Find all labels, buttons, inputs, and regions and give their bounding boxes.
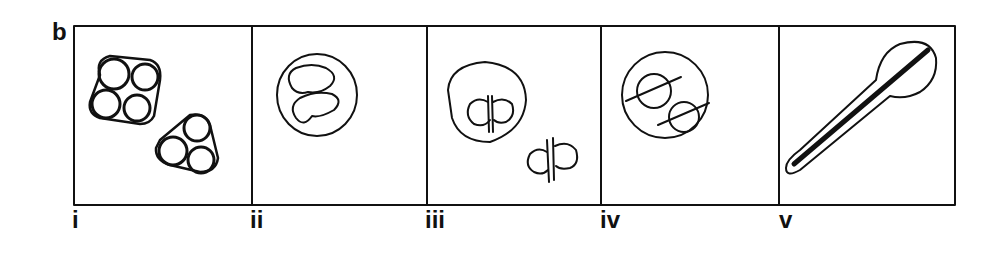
frame — [74, 26, 955, 205]
subpanel-label-iii: iii — [425, 208, 445, 232]
triad-cluster — [156, 114, 218, 173]
subpanel-label-v: v — [779, 208, 792, 232]
diagram-canvas — [0, 0, 998, 256]
free-dividing-pair — [528, 138, 577, 182]
club-shaped-cell — [786, 42, 936, 174]
cell-dividing-pair — [448, 62, 526, 142]
subpanel-label-i: i — [72, 208, 79, 232]
cell-two-curved-bodies — [277, 54, 357, 136]
cell-crossed-circles — [622, 52, 709, 138]
subpanel-label-iv: iv — [600, 208, 620, 232]
subpanel-label-ii: ii — [250, 208, 263, 232]
tetrad-cluster — [90, 56, 161, 124]
